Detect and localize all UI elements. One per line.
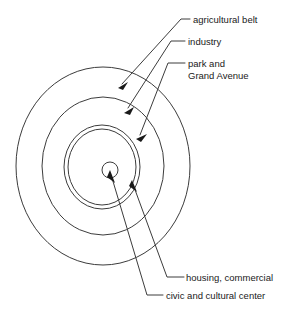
- ring-park-grand-avenue-outer: [64, 125, 140, 209]
- label-industry: industry: [188, 36, 221, 48]
- zone-rings-group: [16, 67, 190, 265]
- label-housing-commercial: housing, commercial: [186, 272, 273, 284]
- ring-park-grand-avenue-inner: [68, 129, 136, 205]
- label-agricultural-belt: agricultural belt: [193, 14, 257, 26]
- leader-agricultural-belt: [118, 19, 190, 90]
- arrow-head-park-grand-avenue: [136, 134, 147, 142]
- arrow-head-industry: [124, 107, 134, 115]
- leader-park-grand-avenue: [136, 63, 185, 142]
- concentric-zone-diagram: agricultural belt industry park andGrand…: [0, 0, 298, 319]
- label-park-and-grand-avenue-line1: park and: [188, 58, 225, 69]
- label-park-and-grand-avenue-line2: Grand Avenue: [188, 70, 249, 81]
- label-civic-and-cultural-center: civic and cultural center: [166, 290, 265, 302]
- label-park-and-grand-avenue: park andGrand Avenue: [188, 58, 249, 81]
- leader-industry: [124, 41, 185, 115]
